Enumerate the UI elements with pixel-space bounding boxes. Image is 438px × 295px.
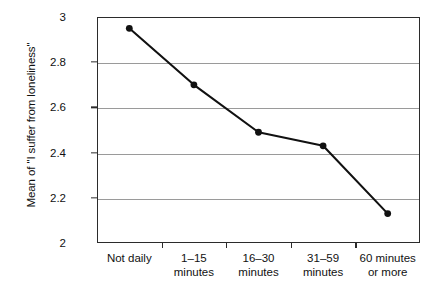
x-tick-mark	[291, 243, 292, 248]
x-tick-mark	[226, 243, 227, 248]
y-tick-label: 2	[26, 237, 66, 249]
y-tick-mark	[91, 152, 97, 153]
y-tick-mark	[91, 107, 97, 108]
y-tick-label: 3	[26, 11, 66, 23]
y-tick-label: 2.2	[26, 192, 66, 204]
y-tick-label: 2.8	[26, 56, 66, 68]
x-tick-mark	[355, 243, 356, 248]
gridline	[98, 199, 419, 200]
y-axis-title: Mean of "I suffer from loneliness"	[20, 0, 42, 250]
line-chart-figure: Mean of "I suffer from loneliness" 22.22…	[0, 0, 438, 295]
y-tick-mark	[91, 62, 97, 63]
x-tick-mark	[162, 243, 163, 248]
gridline	[98, 63, 419, 64]
y-tick-mark	[91, 197, 97, 198]
gridline	[98, 108, 419, 109]
y-tick-label: 2.6	[26, 101, 66, 113]
x-tick-label: 60 minutes or more	[342, 252, 434, 279]
plot-area	[97, 17, 420, 243]
gridline	[98, 154, 419, 155]
y-tick-label: 2.4	[26, 147, 66, 159]
